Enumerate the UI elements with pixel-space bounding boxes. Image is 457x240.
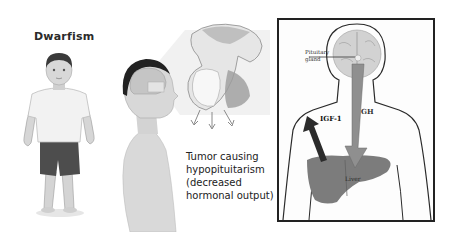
- pituitary-gland-label: Pituitary gland: [305, 49, 329, 63]
- pituitary-label-line-2: gland: [305, 56, 329, 63]
- tumor-caption-line-1: Tumor causing: [186, 150, 274, 163]
- igf-1-label: IGF-1: [320, 114, 342, 123]
- tumor-caption-line-3: (decreased: [186, 176, 274, 189]
- child-illustration: [20, 50, 95, 220]
- tumor-caption: Tumor causing hypopituitarism (decreased…: [186, 150, 274, 202]
- body-outline-diagram: [279, 20, 433, 220]
- pituitary-label-line-1: Pituitary: [305, 49, 329, 56]
- gh-label: GH: [361, 107, 374, 116]
- tumor-caption-line-4: hormonal output): [186, 189, 274, 202]
- tumor-caption-line-2: hypopituitarism: [186, 163, 274, 176]
- dwarfism-label: Dwarfism: [34, 30, 94, 43]
- liver-label: Liver: [345, 175, 361, 182]
